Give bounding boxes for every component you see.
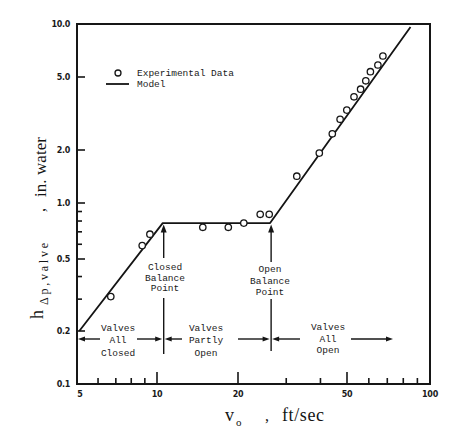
y-label-symbol: h — [27, 310, 47, 319]
y-tick-label: 2.0 — [57, 146, 71, 155]
data-point-open-circle — [241, 220, 247, 226]
legend-label-model: Model — [137, 79, 166, 90]
x-tick-label: 10 — [152, 390, 163, 399]
x-label-unit: ft/sec — [282, 405, 324, 425]
annotation-text: Point — [151, 283, 180, 294]
data-point-open-circle — [357, 86, 363, 92]
region-text: Open — [317, 345, 340, 356]
region-text: Valves — [189, 323, 223, 334]
data-point-open-circle — [337, 116, 343, 122]
arrow-right-icon — [263, 336, 270, 341]
legend-open-circle-icon — [115, 70, 121, 76]
region-valves-partly-open: Valves Partly Open — [189, 323, 224, 359]
region-text: Partly — [189, 335, 224, 346]
region-valves-all-open: Valves All Open — [311, 322, 345, 356]
x-axis-tick-labels: 5102050100 — [77, 390, 438, 399]
x-label-symbol: v — [225, 405, 234, 425]
y-tick-label: 10.0 — [51, 20, 70, 29]
y-tick-label: 0.2 — [57, 327, 70, 336]
y-tick-label: 1.0 — [57, 199, 71, 208]
region-text: Valves — [101, 323, 135, 334]
y-tick-label: 5.0 — [57, 73, 71, 82]
region-valves-all-closed: Valves All Closed — [101, 323, 135, 359]
data-point-open-circle — [266, 211, 272, 217]
data-point-open-circle — [375, 62, 381, 68]
data-point-open-circle — [367, 69, 373, 75]
y-axis-ticks — [77, 77, 85, 331]
region-text: Open — [195, 348, 218, 359]
x-axis-ticks — [98, 372, 417, 384]
data-point-open-circle — [329, 131, 335, 137]
y-axis-tick-labels: 0.10.20.51.02.05.010.0 — [51, 20, 70, 389]
legend-label-experimental: Experimental Data — [137, 68, 234, 79]
x-axis-label: v o , ft/sec — [225, 405, 324, 428]
region-text: All — [109, 335, 126, 346]
arrow-left-icon — [78, 336, 85, 341]
y-label-unit: in. water — [31, 137, 50, 197]
annotation-text: Point — [256, 287, 285, 298]
arrow-right-icon — [155, 336, 162, 341]
annotation-closed-balance-point: Closed Balance Point — [145, 262, 185, 294]
y-axis-label: h Δp,valve , in. water — [27, 137, 51, 319]
x-tick-label: 100 — [422, 390, 439, 399]
data-point-open-circle — [225, 224, 231, 230]
y-tick-label: 0.5 — [57, 255, 71, 264]
x-label-separator: , — [265, 407, 269, 424]
model-line — [79, 27, 410, 331]
arrow-up-icon — [268, 225, 274, 233]
data-point-open-circle — [108, 293, 114, 299]
data-point-open-circle — [147, 231, 153, 237]
log-log-chart: 0.10.20.51.02.05.010.0 5102050100 Experi… — [0, 0, 455, 444]
y-label-separator: , — [31, 208, 48, 212]
x-label-subscript: o — [236, 416, 242, 428]
region-text: Closed — [101, 348, 135, 359]
legend: Experimental Data Model — [106, 68, 234, 90]
data-point-open-circle — [363, 78, 369, 84]
x-tick-label: 20 — [233, 390, 244, 399]
data-point-open-circle — [294, 173, 300, 179]
arrow-left-icon — [272, 336, 279, 341]
x-tick-label: 50 — [342, 390, 353, 399]
arrow-left-icon — [165, 336, 172, 341]
data-point-open-circle — [316, 150, 322, 156]
annotation-text: Open — [259, 264, 282, 275]
data-point-open-circle — [351, 94, 357, 100]
annotation-text: Balance — [250, 276, 290, 287]
y-tick-label: 0.1 — [57, 380, 71, 389]
y-label-subscript: Δp,valve — [37, 243, 51, 305]
annotation-text: Closed — [148, 262, 182, 273]
data-point-open-circle — [257, 211, 263, 217]
region-text: Valves — [311, 322, 345, 333]
region-text: All — [319, 334, 336, 345]
data-point-open-circle — [380, 53, 386, 59]
data-point-open-circle — [139, 242, 145, 248]
data-point-open-circle — [344, 107, 350, 113]
x-tick-label: 5 — [77, 390, 83, 399]
annotation-open-balance-point: Open Balance Point — [250, 264, 290, 298]
arrow-right-icon — [386, 336, 393, 341]
data-point-open-circle — [200, 224, 206, 230]
